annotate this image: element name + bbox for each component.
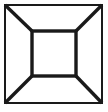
perspective-box-figure xyxy=(0,0,108,112)
figure-canvas xyxy=(0,0,108,112)
